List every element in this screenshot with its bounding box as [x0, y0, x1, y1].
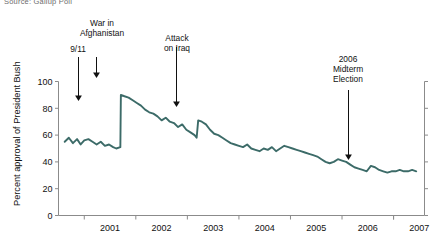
y-axis-ticks: [55, 82, 59, 216]
svg-text:2004: 2004: [255, 223, 275, 233]
axis-group: 020406080100 200120022003200420052006200…: [37, 77, 429, 233]
approval-rating-chart: Source: Gallup Poll Percent approval of …: [0, 0, 441, 251]
approval-line-series: [65, 95, 417, 173]
arrow-attack-on-iraq: [173, 47, 180, 107]
svg-text:80: 80: [42, 104, 52, 114]
svg-text:20: 20: [42, 184, 52, 194]
svg-text:40: 40: [42, 157, 52, 167]
arrow-2006-midterm-election: [345, 90, 352, 160]
y-axis-tick-labels: 020406080100: [37, 77, 52, 221]
right-axis-ticks: [425, 82, 429, 216]
annotation-arrows: [75, 47, 352, 160]
x-axis-ticks: [84, 216, 393, 220]
svg-text:60: 60: [42, 130, 52, 140]
chart-plot-area: 020406080100 200120022003200420052006200…: [0, 0, 441, 251]
svg-text:2006: 2006: [358, 223, 378, 233]
svg-text:2003: 2003: [203, 223, 223, 233]
svg-text:2007: 2007: [409, 223, 429, 233]
arrow-nine-eleven: [75, 57, 82, 101]
svg-text:2001: 2001: [100, 223, 120, 233]
svg-text:2005: 2005: [306, 223, 326, 233]
svg-text:100: 100: [37, 77, 52, 87]
x-axis-tick-labels: 2001200220032004200520062007: [100, 223, 429, 233]
arrow-war-in-afghanistan: [93, 57, 100, 78]
svg-text:0: 0: [47, 211, 52, 221]
svg-text:2002: 2002: [152, 223, 172, 233]
